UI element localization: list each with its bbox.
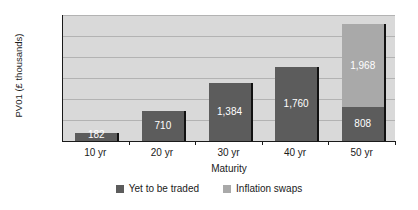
- x-axis-title: Maturity: [62, 163, 396, 174]
- bar-group[interactable]: 182: [75, 133, 117, 141]
- bar-value-label: 182: [88, 130, 105, 140]
- bar-value-label: 808: [354, 119, 371, 129]
- x-axis-tick-label: 20 yr: [129, 147, 195, 158]
- x-axis-tick-label: 40 yr: [262, 147, 328, 158]
- plot-area: 1827101,3841,7601,968808: [62, 15, 395, 141]
- bar-shadow: [184, 111, 186, 141]
- bar-segment-yet-to-be-traded[interactable]: 1,760: [275, 67, 317, 141]
- bar-shadow: [117, 133, 119, 141]
- x-axis-tick-mark: [129, 141, 130, 145]
- bar-segment-yet-to-be-traded[interactable]: 1,384: [209, 83, 251, 141]
- bar-value-label: 1,384: [217, 107, 242, 117]
- bar-segment-yet-to-be-traded[interactable]: 182: [75, 133, 117, 141]
- x-axis-tick-mark: [395, 141, 396, 145]
- x-axis-tick-label: 30 yr: [196, 147, 262, 158]
- bar-shadow: [317, 67, 319, 141]
- bar-group[interactable]: 1,384: [209, 83, 251, 141]
- bar-group[interactable]: 1,968808: [342, 24, 384, 141]
- x-axis-tick-label: 50 yr: [329, 147, 395, 158]
- gridline: [63, 15, 395, 16]
- x-axis-tick-mark: [195, 141, 196, 145]
- legend-swatch-icon: [223, 185, 231, 193]
- legend-item[interactable]: Yet to be traded: [116, 183, 199, 194]
- bar-segment-inflation-swaps[interactable]: 1,968: [342, 24, 384, 107]
- bar-segment-yet-to-be-traded[interactable]: 808: [342, 107, 384, 141]
- x-axis-tick-mark: [262, 141, 263, 145]
- legend-label: Inflation swaps: [236, 183, 302, 194]
- x-axis-tick-mark: [328, 141, 329, 145]
- bar-value-label: 1,760: [284, 99, 309, 109]
- bar-shadow: [384, 24, 386, 141]
- y-axis-title: PV01 (£ thousands): [13, 11, 24, 141]
- legend-swatch-icon: [116, 185, 124, 193]
- bar-chart: PV01 (£ thousands) 05001,0001,5002,0002,…: [0, 0, 418, 210]
- bar-group[interactable]: 1,760: [275, 67, 317, 141]
- legend-item[interactable]: Inflation swaps: [223, 183, 302, 194]
- x-axis-tick-label: 10 yr: [62, 147, 128, 158]
- bar-group[interactable]: 710: [142, 111, 184, 141]
- bar-value-label: 1,968: [350, 61, 375, 71]
- x-axis-line: [62, 141, 396, 142]
- chart-legend: Yet to be tradedInflation swaps: [0, 183, 418, 194]
- bar-value-label: 710: [155, 121, 172, 131]
- legend-label: Yet to be traded: [129, 183, 199, 194]
- bar-segment-yet-to-be-traded[interactable]: 710: [142, 111, 184, 141]
- bar-shadow: [251, 83, 253, 141]
